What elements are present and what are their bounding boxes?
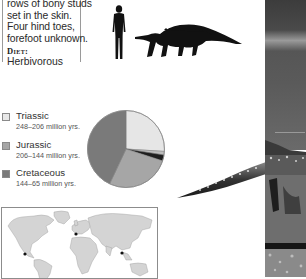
diet-value: Herbivorous <box>7 56 80 67</box>
size-comparison <box>108 2 248 62</box>
description-line: rows of bony studs <box>7 0 80 10</box>
swatch-jurassic <box>2 142 10 150</box>
legend-label: Jurassic <box>16 139 51 150</box>
world-map <box>1 207 158 279</box>
legend-label: Triassic <box>16 110 49 121</box>
dinosaur-silhouette-icon <box>135 24 242 57</box>
marker-china <box>120 251 123 254</box>
description-line: set in the skin. <box>7 10 80 22</box>
pie-slice <box>126 111 165 152</box>
marker-north-america <box>23 252 26 255</box>
swatch-triassic <box>2 113 10 121</box>
diet-label: Diet: <box>7 46 80 56</box>
period-pie-chart <box>86 109 166 193</box>
legend-label: Cretaceous <box>16 167 65 178</box>
legend-range: 206–144 million yrs. <box>16 151 80 160</box>
marker-britain <box>74 232 77 235</box>
description-line: forefoot unknown. <box>7 33 80 45</box>
swatch-cretaceous <box>2 170 10 178</box>
dinosaur-tail <box>170 150 270 209</box>
dinosaur-photo <box>265 0 306 277</box>
world-map-icon <box>2 208 158 279</box>
description-box: rows of bony studs set in the skin. Four… <box>2 0 81 62</box>
description-line: Four hind toes, <box>7 21 80 33</box>
legend-range: 144–65 million yrs. <box>16 179 76 188</box>
human-silhouette-icon <box>113 5 126 59</box>
legend-range: 248–206 million yrs. <box>16 122 80 131</box>
